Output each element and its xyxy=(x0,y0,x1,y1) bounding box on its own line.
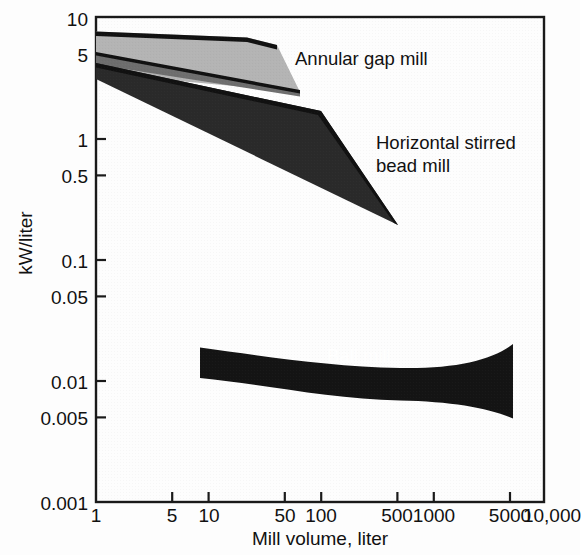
series-annotation-horizontal-stirred-bead-mill-line1: Horizontal stirred xyxy=(376,132,516,154)
y-tick-label: 0.05 xyxy=(51,288,88,307)
x-tick-label: 1 xyxy=(91,506,102,525)
x-axis-title: Mill volume, liter xyxy=(96,528,544,550)
x-tick-label: 100 xyxy=(305,506,337,525)
y-tick-label: 0.001 xyxy=(40,494,88,513)
x-tick-label: 10 xyxy=(198,506,219,525)
series-annotation-horizontal-stirred-bead-mill-line2: bead mill xyxy=(376,155,450,177)
series-annotation-ball-mill: Ball mill xyxy=(327,345,391,367)
y-tick-label: 5 xyxy=(77,46,88,65)
y-tick-label: 0.5 xyxy=(62,167,88,186)
y-tick-label: 0.1 xyxy=(62,252,88,271)
x-tick-label: 5 xyxy=(167,506,178,525)
y-axis-title: kW/liter xyxy=(15,173,37,313)
y-tick-label: 10 xyxy=(67,10,88,29)
x-tick-label: 50 xyxy=(274,506,295,525)
y-tick-label: 0.005 xyxy=(40,409,88,428)
y-tick-label: 0.01 xyxy=(51,373,88,392)
x-tick-label: 500 xyxy=(381,506,413,525)
y-tick-label: 1 xyxy=(77,131,88,150)
print-texture-overlay xyxy=(96,17,544,502)
x-tick-label: 10,000 xyxy=(523,506,581,525)
series-annotation-annular-gap-mill: Annular gap mill xyxy=(295,48,428,70)
x-tick-label: 1000 xyxy=(413,506,455,525)
